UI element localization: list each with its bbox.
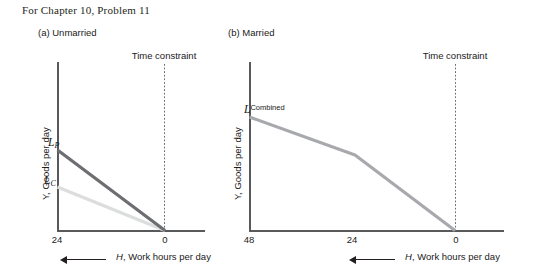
panel-b-x-axis-label-text: , Work hours per day (412, 251, 500, 262)
curve-label-lp: LP (48, 136, 59, 150)
panel-b-xtick-24: 24 (339, 234, 365, 245)
panel-a-x-axis-label-text: , Work hours per day (123, 251, 211, 262)
panel-b-xtick-48: 48 (236, 234, 262, 245)
panel-a-xtick-24: 24 (44, 234, 70, 245)
panel-a-x-axis-label-symbol: H (116, 251, 123, 262)
panel-b-x-direction-arrow-icon (349, 255, 399, 264)
budget-line-lc (58, 187, 166, 231)
panel-a-xtick-0: 0 (152, 234, 178, 245)
figure-canvas: For Chapter 10, Problem 11 (a) Unmarried… (0, 0, 539, 273)
panel-b-xtick-0: 0 (443, 234, 469, 245)
curve-label-lp-subscript: P (54, 141, 59, 150)
panel-b-x-axis-label: H, Work hours per day (405, 251, 500, 262)
budget-line-combined (250, 117, 456, 231)
curve-label-lc: LC (44, 174, 56, 188)
curve-label-combined: LCombined (244, 103, 285, 115)
panel-married: (b) Married Y, Goods per day Time constr… (215, 0, 539, 273)
panel-a-x-direction-arrow-icon (60, 255, 110, 264)
curve-label-combined-superscript: Combined (250, 103, 284, 112)
panel-b-curves (215, 0, 539, 273)
panel-a-curves (0, 0, 250, 273)
budget-line-lp (58, 150, 166, 231)
panel-a-x-axis-label: H, Work hours per day (116, 251, 211, 262)
panel-unmarried: (a) Unmarried Y, Goods per day Time cons… (0, 0, 250, 273)
curve-label-lc-subscript: C (50, 179, 55, 188)
panel-b-x-axis-label-symbol: H (405, 251, 412, 262)
